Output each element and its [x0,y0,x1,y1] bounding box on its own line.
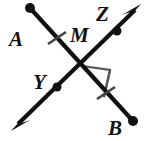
label-a: A [7,27,23,51]
figure-canvas: A M Z Y B [0,0,145,141]
dot-b [128,116,138,126]
dot-y [53,83,62,92]
label-b: B [107,116,122,140]
geometry-figure: A M Z Y B [0,0,145,141]
dot-a [25,3,35,13]
dot-z [113,27,122,36]
label-z: Z [95,2,109,26]
label-y: Y [33,70,48,94]
label-m: M [69,23,90,47]
